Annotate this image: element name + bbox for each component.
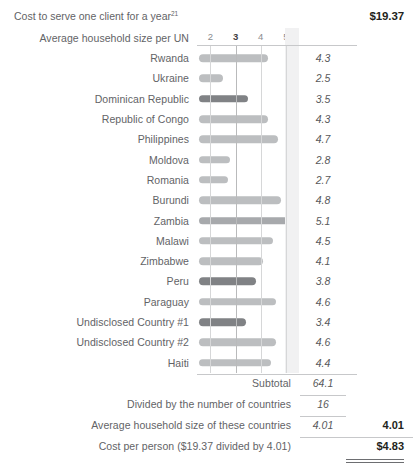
bar-value: 3.8 — [300, 275, 346, 287]
grand-total-underline — [346, 459, 404, 460]
summary-row: Average household size of these countrie… — [0, 415, 413, 436]
chart-row: Paraguay4.6 — [0, 292, 413, 312]
bar-value: 4.8 — [300, 194, 346, 206]
bar-value: 3.5 — [300, 93, 346, 105]
rule — [300, 416, 346, 417]
chart-row: Haiti4.4 — [0, 352, 413, 372]
country-label: Ukraine — [0, 72, 197, 84]
chart-row: Malawi4.5 — [0, 231, 413, 251]
bar-value: 2.5 — [300, 72, 346, 84]
bar-value: 4.3 — [300, 113, 346, 125]
rule — [300, 395, 346, 396]
footnote-marker: 21 — [171, 10, 178, 17]
country-label: Haiti — [0, 357, 197, 369]
axis-tick-3: 3 — [233, 31, 238, 42]
country-label: Moldova — [0, 154, 197, 166]
bar-value: 4.4 — [300, 357, 346, 369]
axis-tick-2: 2 — [208, 31, 213, 42]
chart-row: Romania2.7 — [0, 170, 413, 190]
page-title-text: Cost to serve one client for a year — [14, 10, 171, 22]
chart-row: Philippines4.7 — [0, 129, 413, 149]
country-label: Paraguay — [0, 296, 197, 308]
summary-value: 16 — [300, 398, 346, 410]
gridline-4 — [261, 45, 262, 373]
country-label: Malawi — [0, 235, 197, 247]
bar — [199, 257, 263, 265]
chart-row: Moldova2.8 — [0, 149, 413, 169]
country-label: Philippines — [0, 133, 197, 145]
summary-row: Subtotal64.1 — [0, 373, 413, 394]
summary-extra: $4.83 — [346, 440, 413, 452]
bar-value: 4.6 — [300, 336, 346, 348]
bar — [199, 278, 256, 286]
bar-value: 4.7 — [300, 133, 346, 145]
bar-value: 2.8 — [300, 154, 346, 166]
chart-row: Undisclosed Country #24.6 — [0, 332, 413, 352]
header-amount: $19.37 — [369, 10, 413, 22]
country-label: Zimbabwe — [0, 255, 197, 267]
gridline-5 — [286, 45, 287, 373]
summary-row: Divided by the number of countries16 — [0, 394, 413, 415]
country-label: Burundi — [0, 194, 197, 206]
bar-value: 4.3 — [300, 52, 346, 64]
summary-row: Cost per person ($19.37 divided by 4.01)… — [0, 436, 413, 457]
chart-row: Zimbabwe4.1 — [0, 251, 413, 271]
axis-label: Average household size per UN — [0, 32, 197, 44]
rule — [300, 437, 413, 438]
summary-label: Average household size of these countrie… — [0, 419, 300, 431]
rule — [197, 45, 357, 46]
bar-value: 3.4 — [300, 316, 346, 328]
summary-label: Cost per person ($19.37 divided by 4.01) — [0, 440, 300, 452]
chart-row: Peru3.8 — [0, 271, 413, 291]
bar — [199, 156, 230, 164]
chart-row: Republic of Congo4.3 — [0, 109, 413, 129]
country-label: Republic of Congo — [0, 113, 197, 125]
page-title: Cost to serve one client for a year21 — [0, 10, 178, 22]
summary-label: Subtotal — [0, 377, 300, 389]
bar-value: 4.5 — [300, 235, 346, 247]
bar — [199, 176, 228, 184]
chart-body: Rwanda4.3Ukraine2.5Dominican Republic3.5… — [0, 48, 413, 373]
country-label: Peru — [0, 275, 197, 287]
bar-value: 5.1 — [300, 215, 346, 227]
summary-value: 64.1 — [300, 377, 346, 389]
gridline-3 — [236, 45, 237, 373]
country-label: Rwanda — [0, 52, 197, 64]
axis-tick-4: 4 — [258, 31, 263, 42]
chart-row: Undisclosed Country #13.4 — [0, 312, 413, 332]
chart-row: Rwanda4.3 — [0, 48, 413, 68]
chart-row: Ukraine2.5 — [0, 68, 413, 88]
bar-value: 4.1 — [300, 255, 346, 267]
bar — [199, 217, 288, 225]
summary-block: Subtotal64.1Divided by the number of cou… — [0, 373, 413, 457]
country-label: Zambia — [0, 215, 197, 227]
header-row: Cost to serve one client for a year21 $1… — [0, 0, 413, 28]
country-label: Dominican Republic — [0, 93, 197, 105]
summary-label: Divided by the number of countries — [0, 398, 300, 410]
bar-value: 2.7 — [300, 174, 346, 186]
chart-row: Burundi4.8 — [0, 190, 413, 210]
chart-row: Dominican Republic3.5 — [0, 89, 413, 109]
country-label: Undisclosed Country #2 — [0, 336, 197, 348]
chart-row: Zambia5.1 — [0, 210, 413, 230]
country-label: Romania — [0, 174, 197, 186]
country-label: Undisclosed Country #1 — [0, 316, 197, 328]
bar — [199, 318, 246, 326]
summary-value: 4.01 — [300, 419, 346, 431]
gridline-2 — [210, 45, 211, 373]
rule — [197, 374, 357, 375]
bar-value: 4.6 — [300, 296, 346, 308]
bar — [199, 95, 248, 103]
summary-extra: 4.01 — [346, 419, 413, 431]
